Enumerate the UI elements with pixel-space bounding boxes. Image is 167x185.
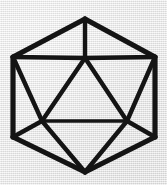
edge-top-apex-to-hex-upper-left: [13, 19, 85, 57]
edge-inner-top-to-inner-lower-left: [42, 58, 85, 121]
edge-top-apex-to-hex-upper-right: [85, 19, 155, 57]
edge-hex-upper-right-to-inner-lower-right: [127, 57, 155, 121]
icosahedron-figure: [0, 0, 167, 185]
edge-hex-upper-left-to-inner-top: [13, 57, 85, 58]
edge-hex-lower-right-to-bottom-apex: [85, 137, 155, 172]
edge-inner-top-to-hex-upper-right: [85, 57, 155, 58]
edge-hex-lower-right-to-inner-lower-right: [127, 121, 155, 137]
edge-hex-upper-left-to-inner-lower-left: [13, 57, 42, 121]
edge-hex-lower-left-to-bottom-apex: [13, 137, 85, 172]
edge-group: [13, 19, 155, 172]
edge-hex-lower-left-to-inner-lower-left: [13, 121, 42, 137]
edge-inner-top-to-inner-lower-right: [85, 58, 127, 121]
icosahedron-wireframe-svg: [0, 0, 167, 185]
